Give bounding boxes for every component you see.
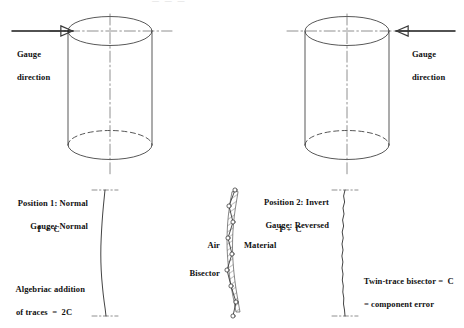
position-2-line1: Position 2: Invert <box>264 197 329 207</box>
algebraic-addition-line2: of traces = 2C <box>16 307 72 317</box>
left-gauge-direction-line1: Gauge <box>17 49 41 59</box>
figure-canvas: — — — <box>0 0 464 328</box>
bisector-label: Bisector <box>166 268 220 280</box>
right-trace-curve <box>342 190 345 316</box>
twin-trace-line1: Twin-trace bisector = C <box>364 276 454 286</box>
position-2-equation: -I + C <box>250 224 328 236</box>
air-label: Air <box>180 240 220 252</box>
left-gauge-direction-line2: direction <box>17 72 50 82</box>
twin-trace-line2: = component error <box>364 299 434 309</box>
right-gauge-direction-line2: direction <box>412 72 445 82</box>
right-gauge-direction-label: Gauge direction <box>403 37 445 95</box>
right-gauge-direction-line1: Gauge <box>412 49 436 59</box>
material-label: Material <box>244 240 276 252</box>
position-1-equation: I + C <box>10 224 88 236</box>
twin-trace-result: Twin-trace bisector = C = component erro… <box>355 264 454 322</box>
left-gauge-direction-label: Gauge direction <box>8 37 50 95</box>
algebraic-addition-line1: Algebriac addition <box>15 284 85 294</box>
position-1-line1: Position 1: Normal <box>18 198 88 208</box>
algebraic-addition-result: Algebriac addition of traces = 2C <box>7 272 85 328</box>
left-trace-curve <box>101 190 106 316</box>
